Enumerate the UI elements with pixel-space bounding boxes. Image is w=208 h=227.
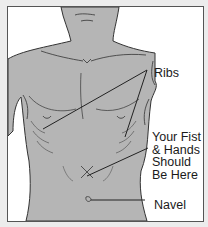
diagram-panel: Ribs Your Fist & Hands Should Be Here Na… (7, 6, 204, 222)
fist-label-line-1: Your Fist (152, 131, 201, 144)
torso-illustration (8, 7, 203, 221)
fist-label-line-3: Should (152, 156, 201, 169)
fist-hands-label: Your Fist & Hands Should Be Here (152, 131, 201, 181)
fist-label-line-4: Be Here (152, 169, 201, 182)
ribs-label: Ribs (154, 67, 179, 80)
navel-label: Navel (154, 199, 186, 212)
